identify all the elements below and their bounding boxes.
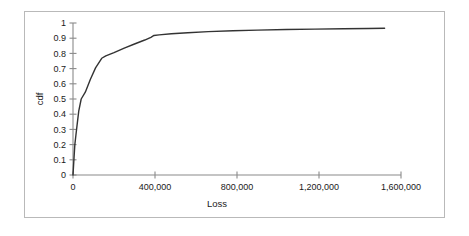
data-series-group — [73, 28, 385, 175]
x-axis-title: Loss — [207, 198, 227, 209]
x-tick-label: 1,600,000 — [381, 182, 421, 192]
x-axis: 0400,000800,0001,200,0001,600,000 — [70, 172, 421, 193]
y-tick-label: 0.6 — [53, 79, 66, 89]
y-axis-title: cdf — [34, 92, 45, 105]
y-axis: 00.10.20.30.40.50.60.70.80.91 — [53, 18, 76, 180]
y-tick-label: 0.8 — [53, 49, 66, 59]
y-tick-label: 0.4 — [53, 109, 66, 119]
x-tick-label: 400,000 — [139, 182, 172, 192]
x-tick-label: 800,000 — [221, 182, 254, 192]
chart-figure: 00.10.20.30.40.50.60.70.80.91 0400,00080… — [0, 0, 469, 236]
y-tick-label: 0.9 — [53, 33, 66, 43]
x-tick-label: 1,200,000 — [299, 182, 339, 192]
chart-plot-area: 00.10.20.30.40.50.60.70.80.91 0400,00080… — [0, 0, 469, 236]
y-tick-label: 1 — [61, 18, 66, 28]
x-tick-label: 0 — [70, 182, 75, 192]
y-tick-label: 0.7 — [53, 64, 66, 74]
y-tick-label: 0 — [61, 170, 66, 180]
y-tick-label: 0.2 — [53, 140, 66, 150]
y-tick-label: 0.1 — [53, 155, 66, 165]
data-series-line — [73, 28, 385, 175]
y-tick-label: 0.5 — [53, 94, 66, 104]
y-tick-label: 0.3 — [53, 125, 66, 135]
